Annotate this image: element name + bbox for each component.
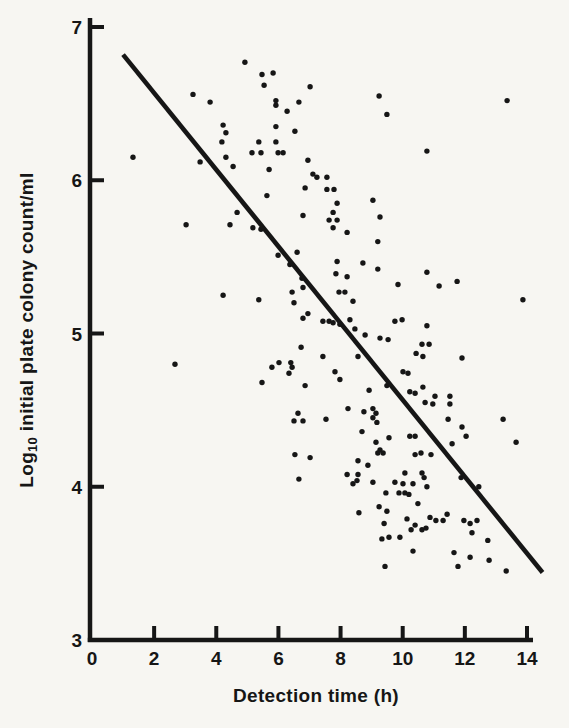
data-point	[385, 337, 390, 342]
data-point	[223, 155, 228, 160]
data-point	[344, 472, 349, 477]
x-tick-label: 6	[273, 648, 284, 669]
data-point	[355, 458, 360, 463]
data-point	[223, 130, 228, 135]
data-point	[384, 112, 389, 117]
x-tick-label: 4	[211, 648, 222, 669]
data-point	[420, 354, 425, 359]
data-point	[375, 450, 380, 455]
data-point	[421, 475, 426, 480]
data-point	[370, 480, 375, 485]
data-point	[377, 214, 382, 219]
data-point	[273, 139, 278, 144]
scatter-plot-figure: 3456702468101214 Detection time (h) Log1…	[0, 0, 569, 728]
data-point	[459, 355, 464, 360]
data-point	[276, 360, 281, 365]
data-point	[320, 354, 325, 359]
x-axis-label: Detection time (h)	[233, 685, 399, 706]
data-point	[331, 187, 336, 192]
data-point	[275, 253, 280, 258]
data-point	[424, 148, 429, 153]
data-point	[415, 501, 420, 506]
trend-line	[123, 55, 542, 573]
data-point	[424, 323, 429, 328]
data-point	[412, 452, 417, 457]
x-tick-label: 2	[149, 648, 160, 669]
data-point	[504, 568, 509, 573]
data-point	[356, 510, 361, 515]
y-tick-label: 4	[71, 477, 82, 498]
data-point	[433, 518, 438, 523]
data-point	[266, 167, 271, 172]
data-point	[320, 319, 325, 324]
data-point	[172, 362, 177, 367]
data-point	[273, 124, 278, 129]
axis-ticks	[90, 27, 527, 640]
data-point	[440, 518, 445, 523]
data-point	[292, 452, 297, 457]
data-point	[355, 354, 360, 359]
x-tick-label: 14	[516, 648, 538, 669]
data-point	[305, 158, 310, 163]
data-point	[359, 429, 364, 434]
data-point	[324, 175, 329, 180]
data-point	[219, 139, 224, 144]
data-point	[275, 150, 280, 155]
y-axis-label: Log10 initial plate colony count/ml	[16, 172, 40, 487]
data-point	[407, 434, 412, 439]
data-point	[386, 435, 391, 440]
data-point	[400, 369, 405, 374]
data-point	[197, 159, 202, 164]
data-point	[376, 93, 381, 98]
data-point	[256, 139, 261, 144]
data-point	[334, 217, 339, 222]
data-point	[370, 415, 375, 420]
data-point	[330, 225, 335, 230]
data-point	[234, 210, 239, 215]
data-point	[286, 371, 291, 376]
data-point	[419, 342, 424, 347]
data-point	[447, 394, 452, 399]
data-point	[292, 129, 297, 134]
data-point	[402, 470, 407, 475]
data-point	[451, 550, 456, 555]
data-point	[227, 222, 232, 227]
y-tick-label: 5	[71, 324, 82, 345]
data-point	[344, 274, 349, 279]
data-point	[395, 282, 400, 287]
data-point	[365, 463, 370, 468]
data-point	[396, 490, 401, 495]
data-point	[386, 535, 391, 540]
data-point	[307, 455, 312, 460]
data-point	[330, 210, 335, 215]
data-point	[463, 434, 468, 439]
x-tick-label: 10	[392, 648, 413, 669]
data-point	[350, 299, 355, 304]
data-point	[294, 250, 299, 255]
data-point	[361, 409, 366, 414]
data-point	[362, 332, 367, 337]
data-point	[379, 536, 384, 541]
data-point	[220, 293, 225, 298]
data-point	[300, 213, 305, 218]
data-point	[207, 99, 212, 104]
data-point	[407, 389, 412, 394]
data-point	[269, 365, 274, 370]
data-point	[130, 155, 135, 160]
data-point	[426, 342, 431, 347]
x-tick-label: 0	[87, 648, 98, 669]
data-point	[459, 424, 464, 429]
data-point	[302, 185, 307, 190]
data-point	[289, 365, 294, 370]
data-point	[296, 99, 301, 104]
data-point	[326, 217, 331, 222]
data-point	[418, 450, 423, 455]
data-point	[382, 564, 387, 569]
data-point	[384, 509, 389, 514]
data-point	[330, 320, 335, 325]
data-point	[449, 441, 454, 446]
data-point	[323, 417, 328, 422]
data-point	[305, 311, 310, 316]
data-point	[420, 384, 425, 389]
data-point	[291, 300, 296, 305]
